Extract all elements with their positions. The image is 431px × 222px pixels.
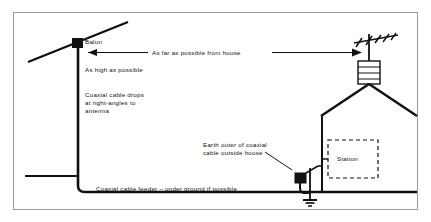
house-roof-icon: [321, 84, 417, 192]
feeder-label: Coaxial cable feeder – under ground if p…: [96, 185, 237, 193]
arrow-right-icon: [352, 49, 362, 57]
earth-outer-line2: cable outside house: [203, 149, 263, 157]
as-high-as-possible-label: As high as possible: [85, 66, 143, 74]
chimney-icon: [358, 61, 380, 84]
balun-dot-icon: [73, 39, 83, 48]
earth-label-leader: [265, 152, 292, 170]
earth-outer-line1: Earth outer of coaxial: [203, 141, 267, 149]
antenna-installation-diagram: Balun As far as possible from house As h…: [0, 0, 431, 222]
tv-antenna-icon: [354, 33, 398, 62]
coax-drops-line2: at right-angles to: [85, 99, 136, 107]
earth-ground-icon: [295, 166, 322, 206]
balun-label: Balun: [85, 38, 102, 46]
coax-drops-line3: antenna: [85, 107, 109, 115]
coax-drops-line1: Coaxial cable drops: [85, 91, 144, 99]
station-label: Station: [337, 155, 358, 163]
as-far-as-possible-label: As far as possible from house: [152, 49, 241, 57]
arrow-left-icon: [88, 49, 97, 56]
